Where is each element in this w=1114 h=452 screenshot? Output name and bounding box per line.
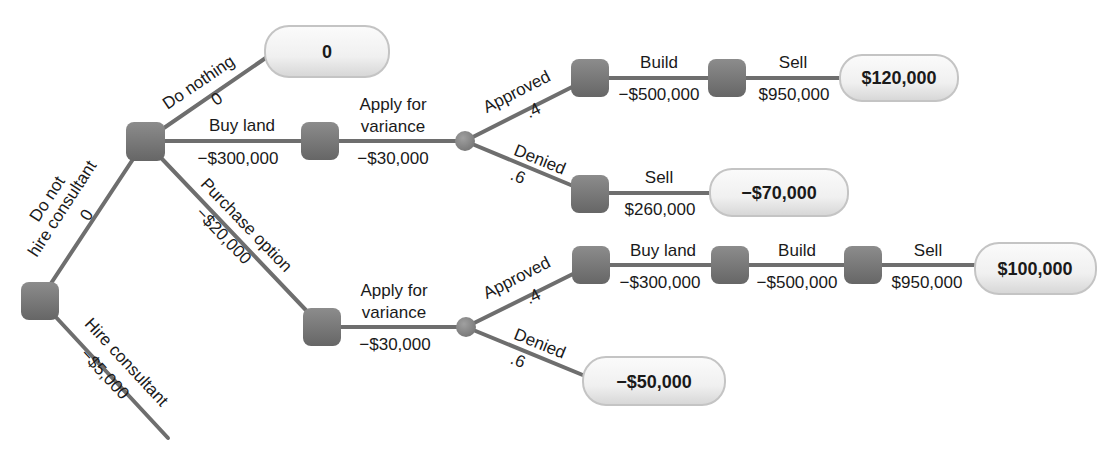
value-upper-denied-sell: $260,000 [625, 200, 696, 219]
label-upper-apply-line2: variance [361, 117, 425, 136]
edges [40, 55, 985, 438]
decision-node-lower-variance[interactable] [303, 308, 341, 346]
value-upper-build: −$500,000 [619, 85, 700, 104]
terminal-value: −$50,000 [616, 372, 692, 392]
label-buy-land: Buy land [209, 116, 275, 135]
decision-node-upper-sell[interactable] [708, 59, 746, 97]
label-upper-denied-sell: Sell [645, 168, 673, 187]
label-lower-apply-line2: variance [362, 303, 426, 322]
chance-nodes [455, 131, 476, 337]
value-buy-land: −$300,000 [198, 149, 279, 168]
label-lower-buy-land: Buy land [630, 241, 696, 260]
prob-lower-denied: .6 [508, 349, 528, 372]
prob-upper-denied: .6 [508, 165, 528, 188]
decision-node-upper-denied-sell[interactable] [571, 175, 609, 213]
value-lower-buy-land: −$300,000 [620, 273, 701, 292]
value-upper-apply: −$30,000 [357, 149, 428, 168]
terminal-lower-denied[interactable]: −$50,000 [583, 357, 725, 405]
chance-node-lower[interactable] [456, 317, 476, 337]
terminal-value: 0 [322, 42, 332, 62]
terminal-value: −$70,000 [741, 183, 817, 203]
label-lower-apply-line1: Apply for [360, 281, 427, 300]
terminal-value: $100,000 [997, 259, 1072, 279]
value-lower-build: −$500,000 [757, 273, 838, 292]
decision-node-lower-sell[interactable] [844, 246, 882, 284]
label-upper-apply-line1: Apply for [359, 95, 426, 114]
decision-node-lower-buy-land[interactable] [572, 246, 610, 284]
terminal-do-nothing[interactable]: 0 [265, 26, 389, 77]
label-upper-sell: Sell [779, 53, 807, 72]
value-lower-sell: $950,000 [892, 273, 963, 292]
decision-node-land[interactable] [126, 122, 165, 161]
label-lower-build: Build [778, 241, 816, 260]
decision-node-root[interactable] [21, 282, 59, 320]
value-do-nothing: 0 [208, 88, 226, 109]
terminal-upper-denied[interactable]: −$70,000 [710, 169, 848, 216]
terminal-value: $120,000 [861, 68, 936, 88]
decision-tree-diagram: 0 $120,000 −$70,000 $100,000 −$50,000 Do… [0, 0, 1114, 452]
label-upper-approved: Approved [480, 67, 553, 117]
labels: Do not hire consultant 0 Hire consultant… [9, 52, 962, 427]
label-lower-approved: Approved [480, 253, 553, 303]
terminal-lower-approved[interactable]: $100,000 [975, 243, 1096, 294]
terminal-upper-approved[interactable]: $120,000 [840, 55, 958, 101]
label-upper-build: Build [640, 53, 678, 72]
decision-node-upper-build[interactable] [571, 59, 609, 97]
decision-node-lower-build[interactable] [711, 246, 749, 284]
value-lower-apply: −$30,000 [359, 335, 430, 354]
value-upper-sell: $950,000 [759, 85, 830, 104]
decision-node-upper-variance[interactable] [301, 122, 339, 160]
label-lower-sell: Sell [914, 241, 942, 260]
chance-node-upper[interactable] [455, 131, 475, 151]
